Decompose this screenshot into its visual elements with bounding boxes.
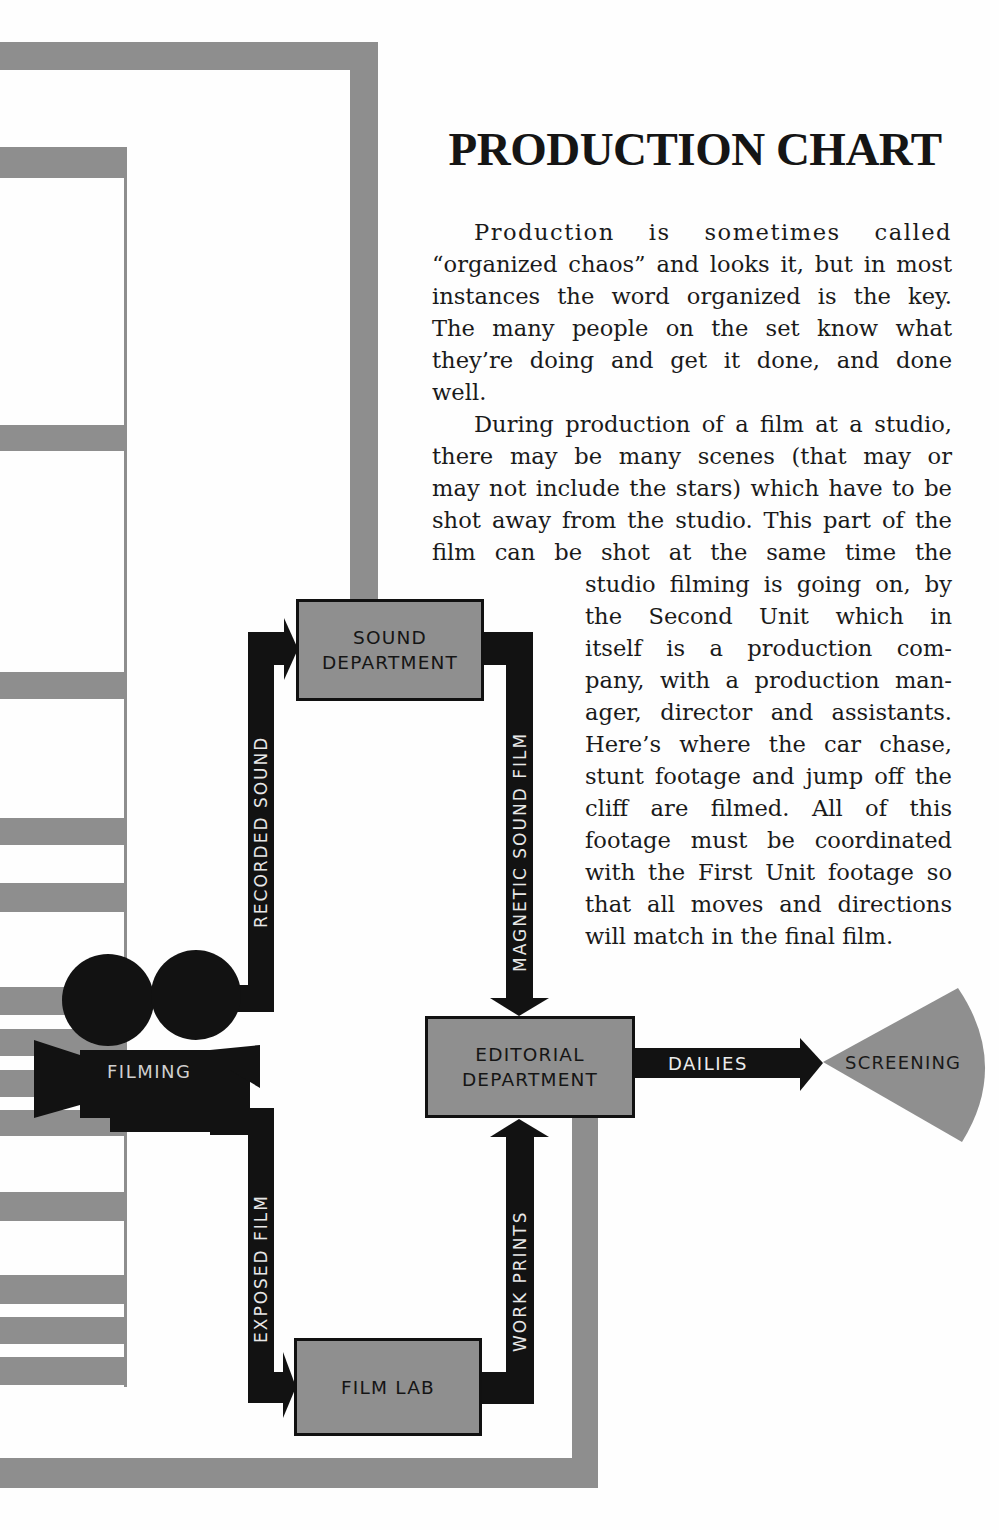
text-line: film can be shot at the same time the [432, 536, 952, 568]
film-lab-node: FILM LAB [294, 1338, 482, 1436]
edge-label-recorded-sound: RECORDED SOUND [251, 736, 271, 928]
edge-label-work-prints: WORK PRINTS [510, 1210, 530, 1352]
text-line: that all moves and directions [585, 888, 952, 920]
text-line: they’re doing and get it done, and done [432, 344, 952, 376]
text-line: well. [432, 376, 952, 408]
filming-node-label: FILMING [107, 1061, 191, 1082]
node-label-line: SOUND [353, 625, 427, 650]
text-line: the Second Unit which in [585, 600, 952, 632]
edge-label-dailies: DAILIES [668, 1053, 748, 1074]
text-line: pany, with a production man- [585, 664, 952, 696]
text-line: with the First Unit footage so [585, 856, 952, 888]
edge-label-exposed-film: EXPOSED FILM [251, 1194, 271, 1343]
text-line: Here’s where the car chase, [585, 728, 952, 760]
node-label-line: EDITORIAL [475, 1042, 584, 1067]
text-line: “organized chaos” and looks it, but in m… [432, 248, 952, 280]
text-line: itself is a production com- [585, 632, 952, 664]
paragraph-1: Production is sometimes called “organize… [432, 216, 952, 408]
text-line: will match in the final film. [585, 920, 952, 952]
text-line: During production of a film at a studio, [432, 408, 952, 440]
page-title: PRODUCTION CHART [430, 122, 960, 176]
node-label: FILM LAB [341, 1375, 435, 1400]
paragraph-2: During production of a film at a studio,… [432, 408, 952, 568]
text-line: Production is sometimes called [432, 216, 952, 248]
text-line: shot away from the studio. This part of … [432, 504, 952, 536]
sound-department-node: SOUND DEPARTMENT [296, 599, 484, 701]
screening-node-label: SCREENING [845, 1052, 961, 1073]
text-line: studio filming is going on, by [585, 568, 952, 600]
text-line: stunt footage and jump off the [585, 760, 952, 792]
edge-label-magnetic-sound-film: MAGNETIC SOUND FILM [510, 732, 530, 972]
node-label-line: DEPARTMENT [322, 650, 458, 675]
text-line: cliff are filmed. All of this [585, 792, 952, 824]
text-line: The many people on the set know what [432, 312, 952, 344]
text-line: footage must be coordinated [585, 824, 952, 856]
editorial-department-node: EDITORIAL DEPARTMENT [425, 1016, 635, 1118]
text-line: may not include the stars) which have to… [432, 472, 952, 504]
node-label-line: DEPARTMENT [462, 1067, 598, 1092]
text-line: ager, director and assistants. [585, 696, 952, 728]
paragraph-2-continued: studio filming is going on, by the Secon… [585, 568, 952, 952]
text-line: there may be many scenes (that may or [432, 440, 952, 472]
text-line: instances the word organized is the key. [432, 280, 952, 312]
